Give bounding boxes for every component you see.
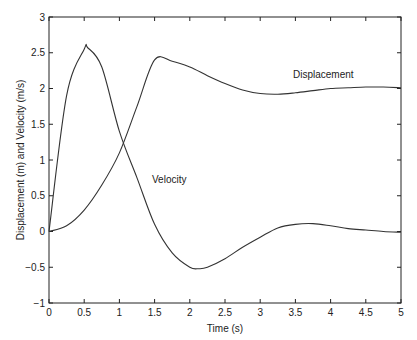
y-tick-label: 2.5 xyxy=(31,47,45,58)
annotation-velocity: Velocity xyxy=(152,174,186,185)
line-chart: 00.511.522.533.544.55−1−0.500.511.522.53… xyxy=(0,0,417,340)
y-tick-label: 3 xyxy=(39,12,45,23)
y-tick-label: 0 xyxy=(39,226,45,237)
x-axis-label: Time (s) xyxy=(207,323,243,334)
series-displacement xyxy=(49,57,401,232)
y-tick-label: 1 xyxy=(39,155,45,166)
x-tick-label: 1 xyxy=(117,307,123,318)
x-tick-label: 3.5 xyxy=(288,307,302,318)
x-tick-label: 3 xyxy=(257,307,263,318)
y-tick-label: 2 xyxy=(39,83,45,94)
x-tick-label: 1.5 xyxy=(148,307,162,318)
x-tick-label: 4.5 xyxy=(359,307,373,318)
x-tick-label: 2.5 xyxy=(218,307,232,318)
y-tick-label: 1.5 xyxy=(31,119,45,130)
y-axis-label: Displacement (m) and Velocity (m/s) xyxy=(15,80,26,241)
x-tick-label: 5 xyxy=(398,307,404,318)
y-tick-label: 0.5 xyxy=(31,190,45,201)
chart-figure: 00.511.522.533.544.55−1−0.500.511.522.53… xyxy=(0,0,417,340)
x-tick-label: 0 xyxy=(46,307,52,318)
axes: 00.511.522.533.544.55−1−0.500.511.522.53 xyxy=(25,12,404,319)
x-tick-label: 0.5 xyxy=(77,307,91,318)
y-tick-label: −0.5 xyxy=(25,262,45,273)
y-tick-label: −1 xyxy=(34,298,46,309)
annotation-displacement: Displacement xyxy=(293,69,354,80)
x-tick-label: 4 xyxy=(328,307,334,318)
x-tick-label: 2 xyxy=(187,307,193,318)
